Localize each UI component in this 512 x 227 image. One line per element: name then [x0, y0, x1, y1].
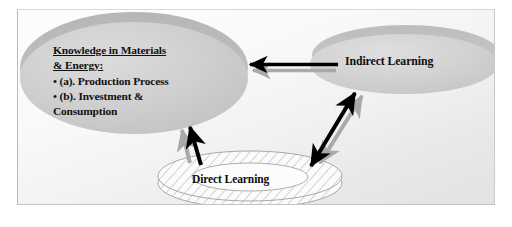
knowledge-item-b: • (b). Investment &	[53, 89, 233, 104]
knowledge-item-a: • (a). Production Process	[53, 74, 233, 89]
connector-direct-indirect-gray	[320, 96, 362, 163]
indirect-learning-label: Indirect Learning	[345, 54, 433, 69]
knowledge-item-b-continued: Consumption	[53, 104, 233, 119]
diagram-figure: Knowledge in Materials & Energy: • (a). …	[0, 0, 512, 227]
connector-direct-to-knowledge-gray	[182, 130, 190, 163]
knowledge-node-text: Knowledge in Materials & Energy: • (a). …	[53, 43, 233, 119]
connector-direct-to-knowledge-black	[190, 127, 201, 165]
connector-direct-indirect-black	[311, 93, 355, 166]
direct-learning-label: Direct Learning	[192, 173, 269, 185]
knowledge-heading-line2: & Energy:	[53, 58, 233, 73]
knowledge-heading-line1: Knowledge in Materials	[53, 43, 233, 58]
